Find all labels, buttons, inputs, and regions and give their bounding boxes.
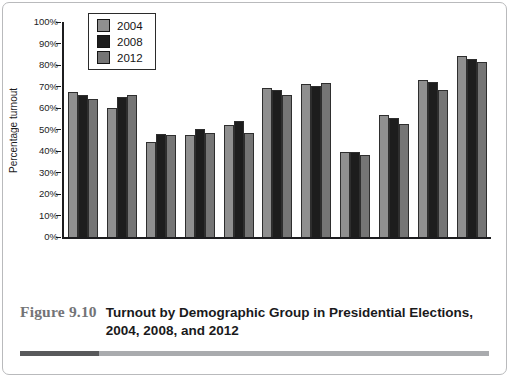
y-tick-mark bbox=[56, 65, 61, 66]
bar-2012 bbox=[282, 95, 292, 237]
y-tick-mark bbox=[56, 43, 61, 44]
bar-2012 bbox=[244, 133, 254, 236]
bar-2008 bbox=[78, 95, 88, 237]
bar-2004 bbox=[457, 56, 467, 237]
bar-group bbox=[452, 22, 491, 237]
figure-label: Figure 9.10 bbox=[20, 303, 97, 321]
bar-2004 bbox=[107, 108, 117, 237]
bar-2008 bbox=[467, 59, 477, 236]
figure-title-line1: Turnout by Demographic Group in Presiden… bbox=[106, 304, 473, 322]
figure-image: Percentage turnout 0%10%20%30%40%50%60%7… bbox=[0, 0, 509, 377]
bar-2004 bbox=[185, 135, 195, 236]
legend-label: 2004 bbox=[117, 20, 143, 32]
y-tick-label: 20% bbox=[18, 188, 58, 199]
bar-2008 bbox=[117, 97, 127, 237]
bar-2008 bbox=[311, 86, 321, 237]
bar-2004 bbox=[224, 125, 234, 237]
bar-2004 bbox=[379, 115, 389, 236]
y-tick-label: 0% bbox=[18, 231, 58, 242]
bar-2004 bbox=[418, 80, 428, 237]
bar-group bbox=[413, 22, 452, 237]
legend-label: 2012 bbox=[117, 52, 143, 64]
bar-2012 bbox=[438, 90, 448, 236]
rule-dark-segment bbox=[20, 351, 99, 356]
y-tick-label: 100% bbox=[18, 16, 58, 27]
bar-2008 bbox=[350, 152, 360, 237]
legend-item: 2004 bbox=[97, 19, 143, 32]
rule-light-segment bbox=[99, 351, 489, 356]
bar-group bbox=[297, 22, 336, 237]
legend-swatch-icon bbox=[97, 51, 110, 64]
bar-2012 bbox=[88, 99, 98, 237]
bar-2012 bbox=[477, 62, 487, 236]
legend-label: 2008 bbox=[117, 36, 143, 48]
y-tick-label: 70% bbox=[18, 81, 58, 92]
bar-chart: Percentage turnout 0%10%20%30%40%50%60%7… bbox=[0, 0, 509, 300]
bar-2008 bbox=[272, 90, 282, 236]
bar-2004 bbox=[340, 152, 350, 237]
legend-item: 2008 bbox=[97, 35, 143, 48]
y-tick-mark bbox=[56, 194, 61, 195]
bar-2004 bbox=[68, 92, 78, 236]
legend-swatch-icon bbox=[97, 19, 110, 32]
bar-group bbox=[219, 22, 258, 237]
bar-2012 bbox=[321, 83, 331, 237]
legend: 200420082012 bbox=[88, 13, 156, 70]
bar-2004 bbox=[262, 88, 272, 236]
y-tick-label: 10% bbox=[18, 210, 58, 221]
legend-item: 2012 bbox=[97, 51, 143, 64]
caption-rule bbox=[20, 351, 489, 356]
y-tick-label: 60% bbox=[18, 102, 58, 113]
bar-2012 bbox=[360, 155, 370, 237]
y-tick-label: 90% bbox=[18, 38, 58, 49]
bar-2008 bbox=[428, 82, 438, 237]
figure-caption: Figure 9.10 Turnout by Demographic Group… bbox=[20, 303, 495, 340]
bar-group bbox=[375, 22, 414, 237]
bar-group bbox=[180, 22, 219, 237]
bar-group bbox=[336, 22, 375, 237]
y-tick-label: 80% bbox=[18, 59, 58, 70]
bar-2012 bbox=[399, 124, 409, 237]
bar-2004 bbox=[146, 142, 156, 237]
bar-2008 bbox=[156, 134, 166, 236]
bar-2008 bbox=[195, 129, 205, 237]
y-tick-mark bbox=[56, 215, 61, 216]
y-tick-mark bbox=[56, 237, 61, 238]
y-tick-label: 50% bbox=[18, 124, 58, 135]
bar-2012 bbox=[127, 95, 137, 237]
figure-title: Turnout by Demographic Group in Presiden… bbox=[106, 304, 473, 340]
y-tick-label: 40% bbox=[18, 145, 58, 156]
y-tick-label: 30% bbox=[18, 167, 58, 178]
y-tick-mark bbox=[56, 108, 61, 109]
legend-swatch-icon bbox=[97, 35, 110, 48]
bar-2008 bbox=[389, 118, 399, 236]
bar-2012 bbox=[166, 135, 176, 236]
bar-2004 bbox=[301, 84, 311, 237]
bar-group bbox=[258, 22, 297, 237]
y-tick-mark bbox=[56, 22, 61, 23]
bar-2012 bbox=[205, 133, 215, 236]
y-tick-mark bbox=[56, 129, 61, 130]
y-tick-mark bbox=[56, 172, 61, 173]
figure-title-line2: 2004, 2008, and 2012 bbox=[106, 322, 473, 340]
bar-2008 bbox=[234, 121, 244, 236]
y-tick-mark bbox=[56, 151, 61, 152]
y-tick-mark bbox=[56, 86, 61, 87]
